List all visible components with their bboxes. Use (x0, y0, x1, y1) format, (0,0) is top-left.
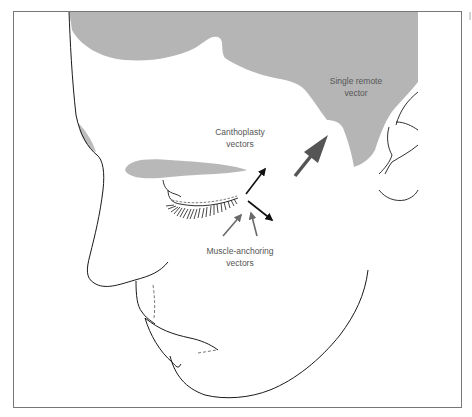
canthoplasty-vector-up-arrow (246, 169, 265, 194)
muscle-anchoring-vector-left-arrow (223, 215, 241, 236)
single-remote-vector-arrow (295, 135, 328, 176)
face-vector-diagram (0, 0, 472, 417)
lower-lip-outline (145, 318, 181, 367)
temple-shadow (78, 123, 96, 152)
lip-corner-line (198, 350, 217, 353)
muscle-anchoring-vector-right-arrow (251, 213, 257, 236)
canthoplasty-vectors-label-line1: Canthoplasty (200, 126, 280, 138)
single-remote-vector-label-line1: Single remote (318, 75, 394, 87)
eyelid-crease (163, 180, 181, 197)
muscle-anchoring-vectors-label: Muscle-anchoring vectors (192, 245, 288, 269)
canthoplasty-vectors-label-line2: vectors (200, 138, 280, 150)
lip-line (145, 318, 218, 350)
eyebrow-shape (125, 159, 247, 178)
single-remote-vector-label-line2: vector (318, 87, 394, 99)
upper-lip-outline (136, 281, 155, 324)
philtrum-dashed-line (153, 285, 155, 318)
chin-jaw-outline (170, 270, 368, 398)
muscle-anchoring-vectors-label-line1: Muscle-anchoring (192, 245, 288, 257)
muscle-anchoring-vectors-label-line2: vectors (192, 257, 288, 269)
closed-eyelid-line (168, 190, 238, 206)
canthoplasty-vectors-label: Canthoplasty vectors (200, 126, 280, 150)
single-remote-vector-label: Single remote vector (318, 75, 394, 99)
